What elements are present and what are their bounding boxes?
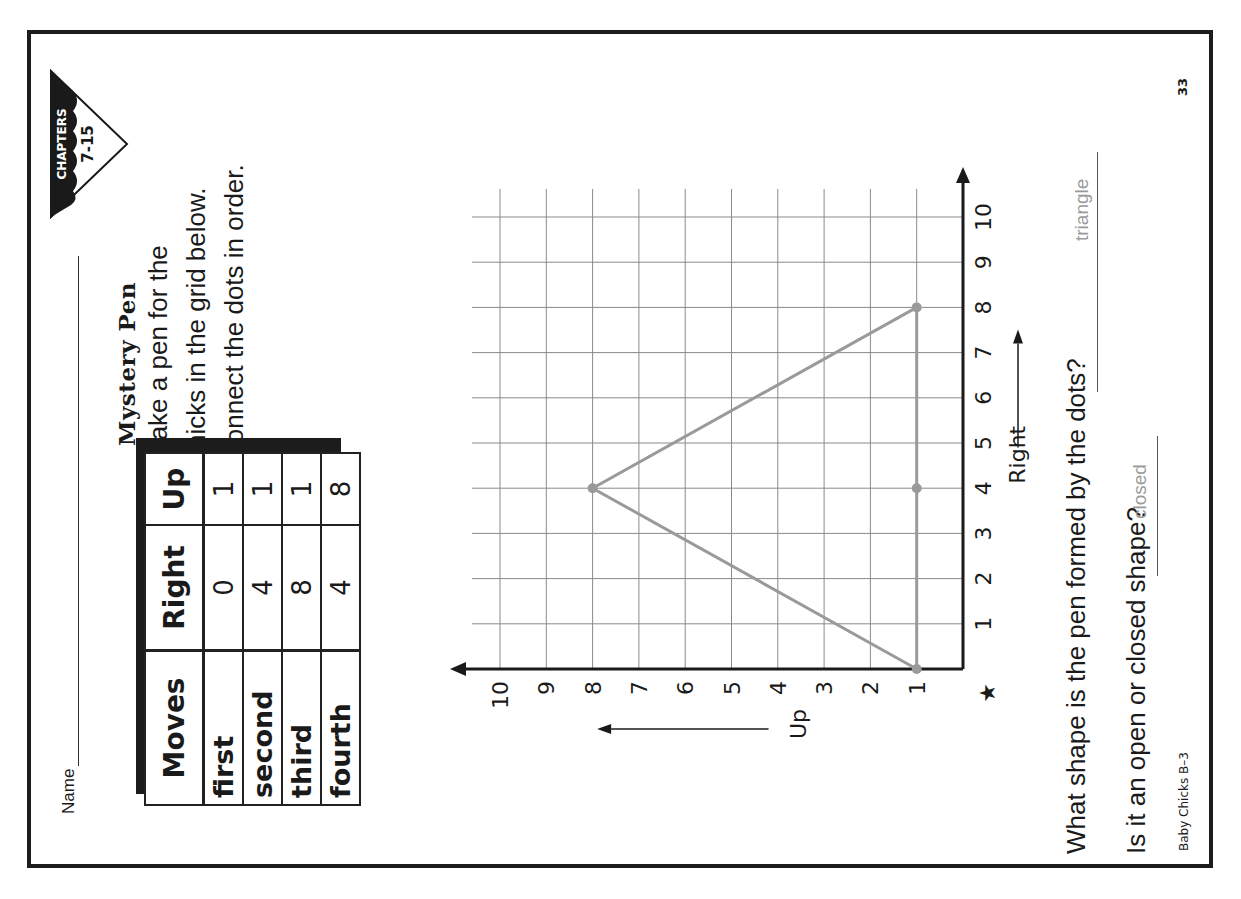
x-tick-label: 9 bbox=[971, 255, 996, 269]
x-tick-label: 8 bbox=[971, 300, 996, 314]
footer-source: Baby Chicks B–3 bbox=[1177, 752, 1191, 851]
y-tick-label: 5 bbox=[720, 681, 745, 695]
y-tick-label: 1 bbox=[905, 681, 930, 695]
grid-axes bbox=[450, 167, 970, 676]
badge-line2: 7-15 bbox=[79, 125, 97, 163]
y-tick-label: 3 bbox=[812, 681, 837, 695]
up-cell: 1 bbox=[204, 453, 244, 525]
table-row: fourth 4 8 bbox=[321, 453, 360, 805]
point-dot bbox=[912, 302, 922, 312]
right-cell: 0 bbox=[204, 525, 244, 650]
y-tick-label: 9 bbox=[534, 681, 559, 695]
badge-line1: CHAPTERS bbox=[55, 108, 69, 179]
origin-star-icon: ★ bbox=[975, 683, 1000, 703]
x-tick-label: 4 bbox=[971, 481, 996, 495]
x-tick-label: 7 bbox=[971, 346, 996, 360]
table-header-row: Moves Right Up bbox=[145, 453, 204, 805]
point-dot bbox=[912, 483, 922, 493]
worksheet-page: Name CHAPTERS 7-15 Mystery Pen Make a pe… bbox=[27, 30, 1213, 868]
answer-1-line[interactable] bbox=[1097, 152, 1098, 392]
point-dot bbox=[912, 664, 922, 674]
up-cell: 8 bbox=[321, 453, 360, 525]
moves-table-container: Moves Right Up first 0 1 second 4 1 thir… bbox=[144, 450, 349, 806]
right-cell: 4 bbox=[321, 525, 360, 650]
grid-lines bbox=[472, 189, 963, 669]
moves-table: Moves Right Up first 0 1 second 4 1 thir… bbox=[144, 452, 361, 806]
right-arrow-icon bbox=[1013, 330, 1023, 344]
activity-title: Mystery Pen bbox=[113, 282, 140, 446]
instruction-line: Connect the dots in order. bbox=[215, 62, 253, 462]
up-arrow-icon bbox=[597, 724, 611, 734]
up-cell: 1 bbox=[282, 453, 321, 525]
question-1: What shape is the pen formed by the dots… bbox=[1061, 358, 1092, 854]
axis-titles: Right Up bbox=[597, 330, 1030, 739]
instruction-line: chicks in the grid below. bbox=[177, 62, 215, 462]
point-dot bbox=[588, 483, 598, 493]
x-tick-label: 1 bbox=[971, 617, 996, 631]
y-axis-label-up: Up bbox=[786, 709, 811, 739]
name-input-line[interactable] bbox=[78, 256, 79, 766]
header-up: Up bbox=[145, 453, 204, 525]
tick-labels: 1234567891012345678910 bbox=[488, 203, 996, 709]
right-cell: 8 bbox=[282, 525, 321, 650]
chapters-badge: CHAPTERS 7-15 bbox=[49, 69, 129, 219]
x-axis-label-right: Right bbox=[1005, 425, 1030, 483]
arrow-right-icon bbox=[956, 167, 970, 183]
y-tick-label: 6 bbox=[673, 681, 698, 695]
up-cell: 1 bbox=[243, 453, 282, 525]
x-tick-label: 10 bbox=[971, 203, 996, 231]
answer-2: closed bbox=[1129, 464, 1151, 519]
table-row: third 8 1 bbox=[282, 453, 321, 805]
x-tick-label: 6 bbox=[971, 391, 996, 405]
answer-1: triangle bbox=[1071, 179, 1093, 241]
move-cell: fourth bbox=[321, 650, 360, 805]
move-cell: third bbox=[282, 650, 321, 805]
header-moves: Moves bbox=[145, 650, 204, 805]
y-tick-label: 7 bbox=[627, 681, 652, 695]
y-tick-label: 8 bbox=[581, 681, 606, 695]
x-tick-label: 3 bbox=[971, 526, 996, 540]
y-tick-label: 4 bbox=[766, 681, 791, 695]
page-number: 33 bbox=[1175, 78, 1190, 96]
table-row: first 0 1 bbox=[204, 453, 244, 805]
answer-2-line[interactable] bbox=[1157, 436, 1158, 576]
pen-outline bbox=[593, 307, 917, 669]
y-tick-label: 10 bbox=[488, 681, 513, 709]
instruction-line: Make a pen for the bbox=[139, 62, 177, 462]
header-right: Right bbox=[145, 525, 204, 650]
instructions: Make a pen for the chicks in the grid be… bbox=[139, 62, 253, 462]
arrow-icon bbox=[597, 330, 1023, 734]
y-tick-label: 2 bbox=[858, 681, 883, 695]
x-tick-label: 2 bbox=[971, 572, 996, 586]
arrow-up-icon bbox=[450, 662, 466, 676]
right-cell: 4 bbox=[243, 525, 282, 650]
name-label: Name bbox=[59, 769, 79, 814]
x-tick-label: 5 bbox=[971, 436, 996, 450]
move-cell: first bbox=[204, 650, 244, 805]
table-row: second 4 1 bbox=[243, 453, 282, 805]
move-cell: second bbox=[243, 650, 282, 805]
pen-shape bbox=[588, 302, 922, 674]
question-2: Is it an open or closed shape? bbox=[1121, 507, 1152, 854]
